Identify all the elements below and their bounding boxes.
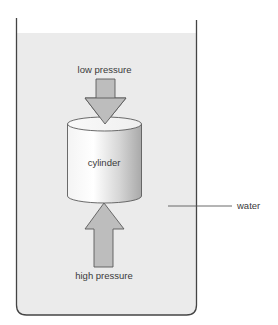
label-high-pressure: high pressure: [75, 270, 133, 281]
buoyancy-diagram: low pressure cylinder high pressure wate…: [0, 0, 278, 325]
label-low-pressure: low pressure: [78, 64, 132, 75]
label-cylinder: cylinder: [88, 157, 121, 168]
label-water: water: [236, 200, 260, 211]
